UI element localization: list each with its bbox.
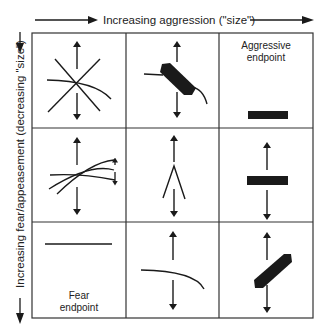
diagram-figure: Increasing aggression ("size") Increasin… [0, 0, 329, 334]
thick-bar [160, 63, 196, 95]
arrow-down-icon [16, 313, 24, 324]
cell-r2c0: Fear endpoint [45, 244, 112, 313]
cross-line [48, 59, 100, 112]
cell-r0c0 [47, 44, 111, 117]
curve-line [49, 169, 114, 189]
cell-r1c1 [163, 138, 185, 214]
arrow-right-icon [88, 16, 98, 24]
aggressive-endpoint-label-line2: endpoint [247, 52, 286, 63]
fear-endpoint-label-line2: endpoint [60, 302, 99, 313]
curve-line [57, 160, 114, 194]
cell-r2c1 [141, 234, 204, 307]
aggressive-endpoint-label-line1: Aggressive [241, 40, 291, 51]
cell-r0c1 [144, 44, 207, 115]
thick-bar [248, 111, 288, 119]
y-axis-label: Increasing fear/appeasement (decreasing … [14, 40, 26, 288]
y-axis: Increasing fear/appeasement (decreasing … [14, 32, 26, 324]
fear-endpoint-label-line1: Fear [69, 290, 90, 301]
cell-r2c2 [254, 235, 292, 310]
cell-r1c2 [247, 145, 288, 217]
thick-bar [247, 176, 288, 185]
arrow-right-icon [302, 16, 314, 24]
thick-bar [254, 254, 292, 288]
curve-line [50, 175, 115, 180]
curve-line [144, 74, 163, 75]
x-axis: Increasing aggression ("size") [35, 14, 314, 26]
cell-r0c2: Aggressive endpoint [241, 40, 291, 119]
x-axis-label: Increasing aggression ("size") [103, 14, 255, 26]
curve-line [47, 80, 111, 99]
cell-r1c0 [49, 140, 115, 212]
